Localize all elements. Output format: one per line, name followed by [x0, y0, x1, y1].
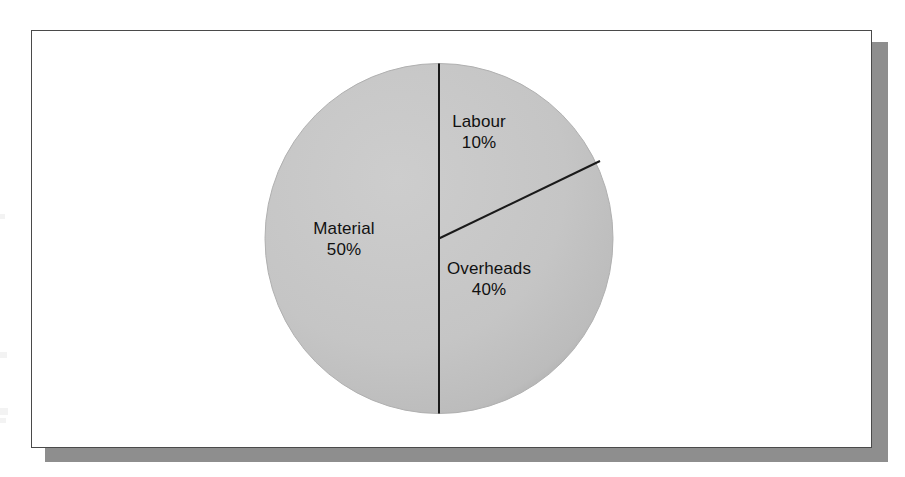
scan-artifact-mark: [0, 418, 6, 423]
pie-label-labour: Labour 10%: [414, 111, 544, 153]
pie-label-labour-value: 10%: [414, 132, 544, 153]
pie-label-overheads: Overheads 40%: [409, 258, 569, 300]
page-canvas: Labour 10% Material 50% Overheads 40%: [0, 0, 905, 477]
scan-artifact-mark: [0, 352, 7, 358]
pie-chart: Labour 10% Material 50% Overheads 40%: [264, 63, 614, 414]
scan-artifact-mark: [0, 214, 5, 219]
pie-label-overheads-value: 40%: [409, 279, 569, 300]
pie-label-material: Material 50%: [274, 218, 414, 260]
pie-label-material-name: Material: [274, 218, 414, 239]
scan-artifact-mark: [0, 408, 8, 415]
figure-frame: Labour 10% Material 50% Overheads 40%: [31, 30, 872, 448]
pie-label-labour-name: Labour: [414, 111, 544, 132]
pie-label-overheads-name: Overheads: [409, 258, 569, 279]
pie-label-material-value: 50%: [274, 239, 414, 260]
